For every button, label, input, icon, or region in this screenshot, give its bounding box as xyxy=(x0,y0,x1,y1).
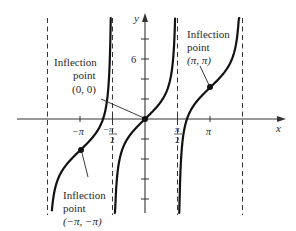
annotation-line: (π, π) xyxy=(187,54,211,67)
x-tick-label-neg-pi: −π xyxy=(72,126,85,137)
annotation-pi: Inflection point (π, π) xyxy=(187,28,230,67)
annotation-line: Inflection xyxy=(54,56,97,68)
curve-branch-1 xyxy=(52,18,111,210)
annotation-line: point xyxy=(73,69,96,81)
annotation-line: Inflection xyxy=(63,189,106,201)
x-tick-label-half-pi: π 2 xyxy=(174,124,182,145)
x-axis-label: x xyxy=(275,122,281,134)
annotation-line: (0, 0) xyxy=(72,83,96,96)
fraction-denominator: 2 xyxy=(175,135,180,145)
x-tick-label-pi: π xyxy=(206,126,212,137)
inflection-point-origin xyxy=(142,116,148,122)
leader-neg-pi xyxy=(82,153,88,177)
leader-origin xyxy=(101,99,144,118)
y-axis-label: y xyxy=(133,12,139,24)
inflection-point-neg-pi xyxy=(78,147,84,153)
annotation-line: point xyxy=(187,41,210,53)
annotation-line: (−π, −π) xyxy=(63,215,102,228)
inflection-point-pi xyxy=(207,84,213,90)
y-axis-arrow-icon xyxy=(142,13,148,22)
chart: y x 6 −π π −π 2 π 2 Inflection point (0,… xyxy=(0,0,296,231)
curves xyxy=(52,18,239,213)
fraction-numerator: π xyxy=(175,124,180,134)
x-tick-label-neg-half-pi: −π 2 xyxy=(103,124,117,145)
annotation-line: Inflection xyxy=(187,28,230,40)
y-tick-label-6: 6 xyxy=(131,54,136,65)
annotation-neg-pi: Inflection point (−π, −π) xyxy=(63,189,106,228)
annotation-line: point xyxy=(63,202,86,214)
fraction-numerator: −π xyxy=(103,124,114,134)
fraction-denominator: 2 xyxy=(110,135,115,145)
leader-pi xyxy=(200,66,209,85)
annotation-origin: Inflection point (0, 0) xyxy=(54,56,97,96)
